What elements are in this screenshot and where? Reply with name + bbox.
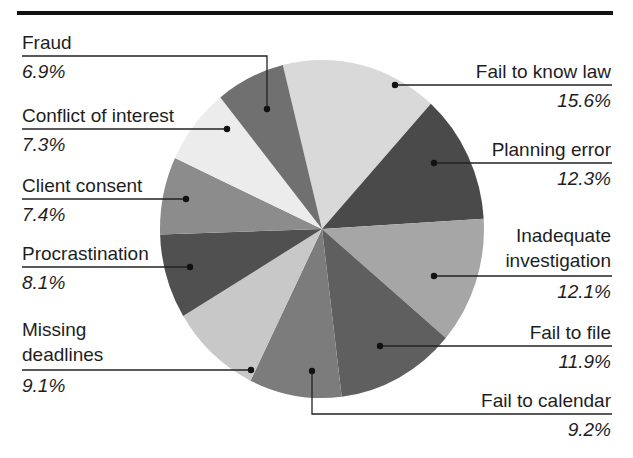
pct-fraud: 6.9% <box>22 60 65 83</box>
pct-fail-to-file: 11.9% <box>559 350 611 373</box>
label-missing-line1: Missing <box>22 318 86 341</box>
label-procrastination: Procrastination <box>22 242 149 265</box>
pct-client-consent: 7.4% <box>22 203 65 226</box>
label-conflict-of-interest: Conflict of interest <box>22 104 174 127</box>
label-investigation-line2: investigation <box>505 249 611 272</box>
pct-conflict-of-interest: 7.3% <box>22 133 65 156</box>
pct-fail-to-know-law: 15.6% <box>557 89 611 112</box>
label-investigation-line1: Inadequate <box>516 224 611 247</box>
label-fail-to-file: Fail to file <box>530 321 611 344</box>
label-fraud: Fraud <box>22 31 72 54</box>
label-planning-error: Planning error <box>492 138 611 161</box>
pie-slices <box>160 60 484 398</box>
label-client-consent: Client consent <box>22 174 142 197</box>
label-missing-line2: deadlines <box>22 343 103 366</box>
pct-planning-error: 12.3% <box>557 167 611 190</box>
pct-inadequate-investigation: 12.1% <box>557 280 611 303</box>
pct-missing-deadlines: 9.1% <box>22 374 65 397</box>
label-fail-to-calendar: Fail to calendar <box>481 389 611 412</box>
label-fail-to-know-law: Fail to know law <box>476 60 611 83</box>
pct-fail-to-calendar: 9.2% <box>568 418 611 441</box>
pct-procrastination: 8.1% <box>22 271 65 294</box>
